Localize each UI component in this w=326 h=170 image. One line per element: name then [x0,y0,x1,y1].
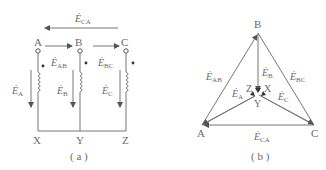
node-b: B [75,36,82,48]
figure-b: B A C Z X Y ĖAB ĖBC ĖB ĖA ĖC ĖCA ( b ) [197,18,318,163]
label-e-b: ĖB [56,85,68,98]
node-z: Z [122,134,129,146]
caption-a: ( a ) [70,150,88,163]
vertex-b: B [254,18,261,30]
label-e-a: ĖA [11,85,23,98]
label-e-b-b: ĖB [261,67,273,80]
label-e-a-b: ĖA [231,88,243,101]
label-e-ca-b: ĖCA [253,131,270,144]
node-c: C [121,36,128,48]
caption-b: ( b ) [251,150,270,163]
label-e-ab: ĖAB [50,57,67,70]
node-y: Y [76,134,84,146]
winding-a [38,53,40,131]
figure-a: ĖCA A B C ĖAB ĖBC [11,13,134,163]
vertex-c: C [311,127,318,139]
label-e-bc-b: ĖBC [289,71,306,84]
terminal-c [124,49,128,53]
label-e-ab-b: ĖAB [205,71,222,84]
node-x: X [33,134,41,146]
polarity-dot-c [132,62,135,65]
center-y: Y [254,98,261,109]
center-x: X [264,83,272,94]
winding-c [126,53,128,131]
terminal-b [78,49,82,53]
polarity-dot-b [85,62,88,65]
node-a: A [34,36,42,48]
side-bc [258,33,314,125]
vertex-a: A [197,127,205,139]
label-e-ca: ĖCA [74,13,91,26]
winding-b [80,53,82,131]
polarity-dot-a [42,65,45,68]
terminal-a [36,49,40,53]
center-z: Z [246,83,252,94]
label-e-c-b: ĖC [277,91,289,104]
label-e-bc: ĖBC [97,57,114,70]
three-phase-delta-diagram: ĖCA A B C ĖAB ĖBC [0,0,326,170]
label-e-c: ĖC [101,85,113,98]
